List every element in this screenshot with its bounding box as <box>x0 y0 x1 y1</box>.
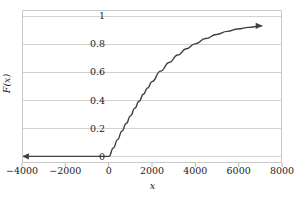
y-tick-label-2: 0.4 <box>90 96 105 106</box>
y-tick-label-3: 0.6 <box>90 68 105 78</box>
x-axis-tick-marks <box>0 163 305 169</box>
y-axis-tick-labels: 00.20.40.60.81 <box>22 10 105 163</box>
right-arrowhead <box>256 23 263 29</box>
chart-figure: 00.20.40.60.81 −4000−2000020004000600080… <box>0 0 305 201</box>
y-tick-label-0: 0 <box>99 153 105 163</box>
y-axis-label: F(x) <box>1 64 12 104</box>
y-tick-label-5: 1 <box>99 11 105 21</box>
y-tick-label-4: 0.8 <box>90 39 105 49</box>
y-tick-label-1: 0.2 <box>90 124 105 134</box>
x-axis-label: x <box>0 180 305 191</box>
